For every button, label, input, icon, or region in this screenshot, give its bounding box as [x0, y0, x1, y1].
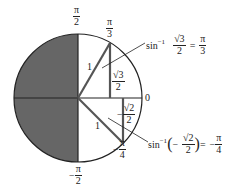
den: 2	[186, 145, 191, 156]
num: √3	[173, 34, 186, 46]
num: √2	[182, 133, 195, 145]
hypotenuse-pi3	[78, 43, 110, 98]
label-hyp-lower: 1	[95, 121, 100, 131]
den: 4	[216, 145, 221, 156]
sign: −	[172, 139, 178, 150]
num: π	[75, 164, 82, 176]
exponent: −1	[160, 137, 167, 145]
num: √3	[112, 70, 125, 82]
num: π	[199, 34, 206, 46]
label-neg-sqrt2-over-2: −√22	[117, 103, 135, 125]
den: 2	[177, 46, 182, 57]
num: π	[119, 138, 126, 150]
den: 3	[200, 46, 205, 57]
label-neg-pi-over-2: −π2	[69, 164, 82, 186]
num: π	[215, 133, 222, 145]
label-sqrt3-over-2: √32	[112, 70, 125, 92]
func: sin	[148, 139, 160, 150]
label-pi-over-3: π3	[106, 17, 113, 39]
equals: =	[190, 40, 196, 51]
num: π	[106, 17, 113, 29]
label-hyp-upper: 1	[87, 62, 92, 72]
exponent: −1	[158, 38, 165, 46]
den: 3	[107, 29, 112, 40]
num: √2	[123, 103, 136, 115]
den: 4	[120, 150, 125, 161]
den: 2	[116, 82, 121, 93]
annotation-arcsin-neg-sqrt2-over-2: sin−1(− √22)= −π4	[148, 133, 222, 155]
den: 2	[76, 176, 81, 187]
equals: =	[200, 139, 206, 150]
label-neg-pi-over-4: −π4	[113, 138, 126, 160]
den: 2	[74, 17, 79, 28]
label-pi-over-2: π2	[73, 5, 80, 27]
num: π	[73, 5, 80, 17]
den: 2	[126, 115, 131, 126]
unit-circle-graphic	[0, 0, 235, 195]
annotation-arcsin-sqrt3-over-2: sin−1 √32 = π3	[146, 34, 206, 56]
unit-circle-diagram: π2 π3 0 −π4 −π2 1 1 √32 −√22 sin−1 √32 =…	[0, 0, 235, 195]
func: sin	[146, 40, 158, 51]
label-zero: 0	[145, 93, 150, 103]
